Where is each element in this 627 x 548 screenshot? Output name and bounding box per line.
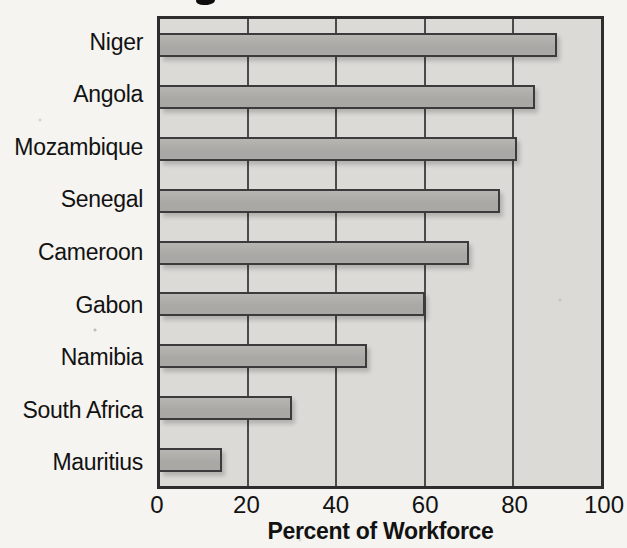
bar-row-mozambique (160, 123, 601, 175)
x-axis-ticks: 020406080100 (157, 491, 604, 518)
bar-row-angola (160, 71, 601, 123)
bar-row-senegal (160, 175, 601, 227)
bar-mozambique (160, 137, 517, 161)
xtick-100: 100 (584, 491, 624, 519)
ylabel-mauritius: Mauritius (0, 437, 150, 490)
ylabel-cameroon: Cameroon (0, 226, 150, 279)
bar-row-niger (160, 19, 601, 71)
bar-series (160, 19, 601, 486)
ylabel-south-africa: South Africa (0, 384, 150, 437)
bar-angola (160, 85, 535, 109)
cropped-title-fragment (196, 0, 215, 5)
bar-row-south-africa (160, 382, 601, 434)
bar-row-cameroon (160, 227, 601, 279)
x-axis-title: Percent of Workforce (157, 518, 604, 545)
bar-gabon (160, 292, 425, 316)
xtick-20: 20 (233, 491, 260, 519)
xtick-40: 40 (322, 491, 349, 519)
bar-niger (160, 33, 557, 57)
ylabel-senegal: Senegal (0, 174, 150, 227)
bar-row-mauritius (160, 434, 601, 486)
bar-south-africa (160, 396, 292, 420)
ylabel-mozambique: Mozambique (0, 121, 150, 174)
ylabel-niger: Niger (0, 16, 150, 69)
bar-mauritius (160, 448, 222, 472)
ylabel-namibia: Namibia (0, 331, 150, 384)
bar-row-gabon (160, 278, 601, 330)
bar-row-namibia (160, 330, 601, 382)
bar-namibia (160, 344, 367, 368)
category-axis-labels: NigerAngolaMozambiqueSenegalCameroonGabo… (0, 16, 150, 489)
plot-area (157, 16, 604, 489)
ylabel-gabon: Gabon (0, 279, 150, 332)
xtick-0: 0 (150, 491, 163, 519)
xtick-60: 60 (412, 491, 439, 519)
ylabel-angola: Angola (0, 69, 150, 122)
xtick-80: 80 (501, 491, 528, 519)
bar-senegal (160, 189, 500, 213)
bar-chart-figure: NigerAngolaMozambiqueSenegalCameroonGabo… (0, 0, 627, 548)
bar-cameroon (160, 241, 469, 265)
